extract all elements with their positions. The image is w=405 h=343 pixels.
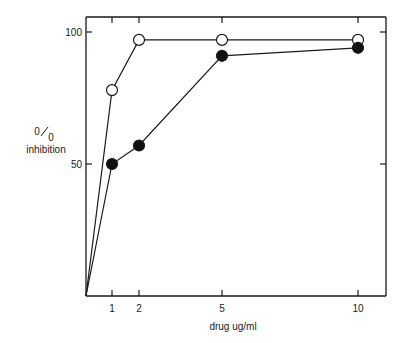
- plot-frame: [86, 17, 386, 296]
- x-tick-label-5: 5: [219, 303, 225, 314]
- percent-slash: [41, 127, 48, 136]
- series-line: [86, 48, 358, 296]
- open-circle-marker: [217, 34, 228, 45]
- x-tick-label-10: 10: [352, 303, 364, 314]
- y-tick-label-100: 100: [65, 27, 82, 38]
- ticks: [86, 17, 386, 296]
- y-axis-title: 0 0 inhibition: [26, 126, 65, 155]
- y-tick-label-50: 50: [71, 159, 83, 170]
- filled-circle-marker: [353, 42, 364, 53]
- x-tick-label-1: 1: [109, 303, 115, 314]
- y-axis-title-text: inhibition: [26, 144, 65, 155]
- filled-circle-marker: [107, 159, 118, 170]
- open-circle-marker: [107, 85, 118, 96]
- series-layer: [86, 34, 364, 296]
- series-open: [86, 34, 364, 296]
- x-axis-title: drug ug/ml: [209, 321, 256, 332]
- x-tick-label-2: 2: [136, 303, 142, 314]
- percent-sign-top: 0: [34, 126, 40, 137]
- filled-circle-marker: [217, 50, 228, 61]
- series-filled: [86, 42, 364, 296]
- open-circle-marker: [134, 34, 145, 45]
- filled-circle-marker: [134, 140, 145, 151]
- series-line: [86, 40, 358, 296]
- percent-sign-bottom: 0: [48, 132, 54, 143]
- chart: 1 2 5 10 100 50 drug ug/ml 0 0 inhibitio…: [0, 0, 405, 343]
